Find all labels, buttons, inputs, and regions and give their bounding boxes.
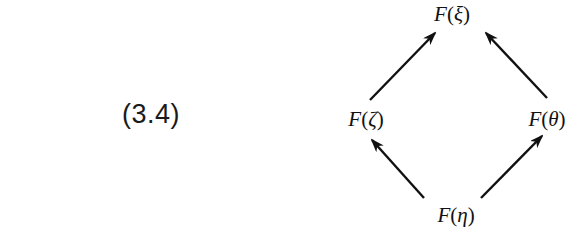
arrow-theta-to-xi — [486, 33, 547, 98]
arrow-eta-to-theta — [481, 136, 542, 198]
arrow-zeta-to-xi — [370, 33, 435, 100]
arrows-layer — [0, 0, 574, 231]
arrow-eta-to-zeta — [372, 140, 424, 198]
